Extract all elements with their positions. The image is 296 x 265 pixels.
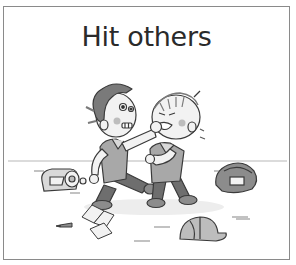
card-title: Hit others xyxy=(4,21,289,53)
baseball-cap-icon xyxy=(180,217,226,241)
backpack-left-icon xyxy=(42,169,86,191)
boy-left xyxy=(86,84,156,210)
flashcard: Hit others xyxy=(3,6,290,260)
fight-illustration xyxy=(4,67,291,257)
boy-right xyxy=(146,91,206,208)
pencil-icon xyxy=(56,223,72,227)
backpack-right-icon xyxy=(216,163,257,193)
